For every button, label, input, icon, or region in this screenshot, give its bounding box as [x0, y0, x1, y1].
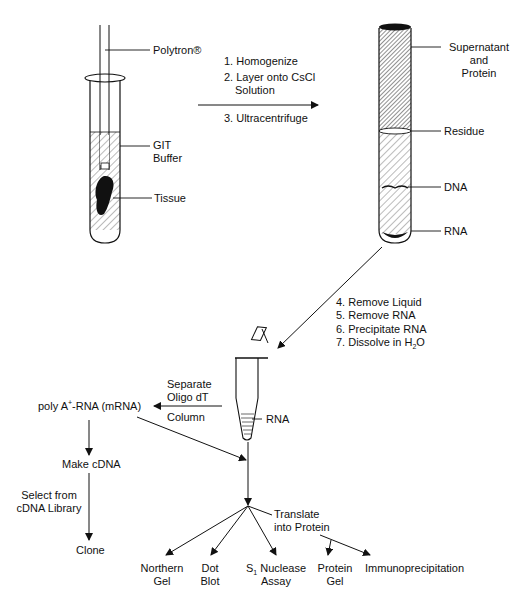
- label-column: Column: [167, 411, 205, 424]
- step-2: 2. Layer onto CsCl: [224, 71, 315, 84]
- label-supernatant: Supernatant and Protein: [444, 41, 514, 80]
- label-clone: Clone: [76, 544, 105, 557]
- step-2-cont: Solution: [235, 84, 275, 97]
- label-rna-pellet: RNA: [444, 225, 467, 238]
- step-5: 5. Remove RNA: [336, 309, 415, 322]
- output-s1-nuclease: S1 Nuclease Assay: [244, 562, 308, 588]
- step-1: 1. Homogenize: [224, 55, 298, 68]
- label-buffer: Buffer: [153, 152, 182, 165]
- label-select-library: Select from cDNA Library: [14, 489, 84, 515]
- label-translate: Translate into Protein: [274, 508, 330, 534]
- output-dot-blot: Dot Blot: [195, 562, 225, 588]
- step-6: 6. Precipitate RNA: [336, 323, 426, 336]
- output-northern-gel: Northern Gel: [134, 562, 190, 588]
- step-7: 7. Dissolve in H2O: [336, 336, 425, 349]
- step-3: 3. Ultracentrifuge: [224, 112, 308, 125]
- step-4: 4. Remove Liquid: [336, 296, 422, 309]
- label-rna-microtube: RNA: [266, 413, 289, 426]
- centrifuge-tube: [379, 24, 411, 244]
- label-oligo-dt: Oligo dT: [167, 391, 209, 404]
- polytron-probe: [100, 25, 109, 170]
- label-dna: DNA: [444, 181, 467, 194]
- label-polytron: Polytron®: [153, 44, 201, 57]
- microcentrifuge-tube: [235, 324, 270, 440]
- label-git: GIT: [153, 139, 171, 152]
- label-poly-a-rna: poly A+-RNA (mRNA): [38, 400, 141, 413]
- label-residue: Residue: [444, 125, 484, 138]
- output-immunoprecipitation: Immunoprecipitation: [365, 562, 464, 575]
- label-tissue: Tissue: [154, 192, 186, 205]
- label-make-cdna: Make cDNA: [62, 458, 121, 471]
- output-protein-gel: Protein Gel: [314, 562, 356, 588]
- label-separate: Separate: [167, 378, 212, 391]
